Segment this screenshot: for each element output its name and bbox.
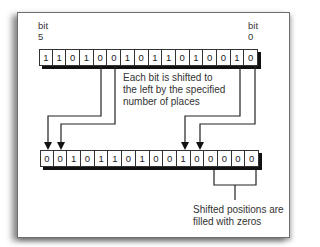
shift-explanation-line: number of places: [123, 96, 225, 108]
shift-arrow-line: [48, 66, 101, 142]
arrowhead-icon: [196, 142, 204, 150]
shift-explanation-line: Each bit is shifted to: [123, 72, 225, 84]
shift-explanation-line: the left by the specified: [123, 84, 225, 96]
shift-explanation: Each bit is shifted to the left by the s…: [123, 72, 225, 108]
arrowhead-icon: [44, 142, 52, 150]
arrowhead-icon: [181, 142, 189, 150]
arrowhead-icon: [57, 142, 65, 150]
fill-bracket: [214, 170, 256, 185]
fill-explanation-line: filled with zeros: [193, 216, 284, 228]
fill-explanation-line: Shifted positions are: [193, 204, 284, 216]
fill-explanation: Shifted positions are filled with zeros: [193, 204, 284, 228]
shift-arrow-line: [61, 66, 115, 142]
